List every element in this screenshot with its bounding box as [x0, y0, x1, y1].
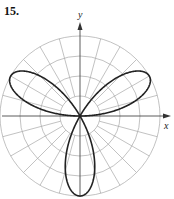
- grid-spoke: [99, 121, 157, 137]
- grid-spoke: [59, 135, 75, 193]
- x-axis-arrow-icon: [163, 114, 171, 119]
- grid-spoke: [59, 39, 75, 97]
- polar-plot: x y: [0, 0, 174, 199]
- y-axis-arrow-icon: [78, 22, 83, 30]
- grid-spoke: [85, 135, 101, 193]
- y-axis-label: y: [77, 9, 83, 20]
- grid-spoke: [3, 121, 61, 137]
- x-axis-label: x: [163, 120, 169, 131]
- grid-spoke: [85, 39, 101, 97]
- grid-spoke: [3, 95, 61, 111]
- grid-spoke: [99, 95, 157, 111]
